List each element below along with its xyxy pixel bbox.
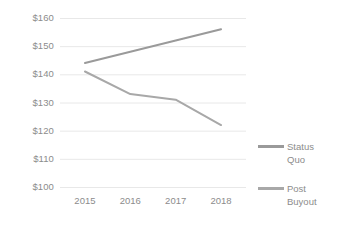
legend-label-status-quo: Status Quo [287,140,314,166]
legend-swatch-status-quo [258,145,284,148]
x-tick-label: 2016 [120,195,141,206]
legend-swatch-post-buyout [258,187,284,190]
legend-label-post-buyout: Post Buyout [287,182,317,208]
line-chart: $100$110$120$130$140$150$160 20152016201… [0,0,348,228]
x-tick-label: 2018 [210,195,231,206]
x-tick-label: 2017 [165,195,186,206]
x-tick-label: 2015 [74,195,95,206]
legend-item-status-quo[interactable]: Status Quo [258,140,346,166]
legend-item-post-buyout[interactable]: Post Buyout [258,182,346,208]
chart-legend: Status Quo Post Buyout [258,140,346,224]
